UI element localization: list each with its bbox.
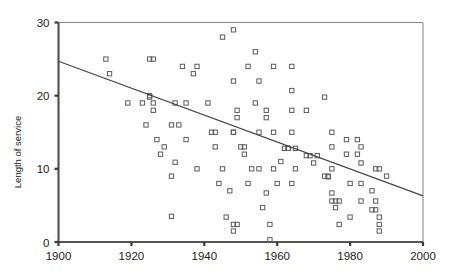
data-point [279,159,283,163]
data-point [242,152,246,156]
data-point [151,108,155,112]
data-point [370,189,374,193]
data-point [169,123,173,127]
data-point [180,64,184,68]
data-point [162,145,166,149]
data-point [359,181,363,185]
data-point [359,145,363,149]
y-axis-ticks: 0102030 [37,17,59,249]
data-point [384,174,388,178]
data-point [224,215,228,219]
data-point [290,88,294,92]
data-point [293,167,297,171]
data-point [144,123,148,127]
data-point [359,161,363,165]
data-point [235,108,239,112]
data-point [271,167,275,171]
y-tick-label-20: 20 [37,90,50,102]
data-point [271,130,275,134]
data-point [275,181,279,185]
data-point [169,174,173,178]
data-point [271,64,275,68]
data-point [355,137,359,141]
data-point [246,64,250,68]
data-point [257,79,261,83]
data-point [344,152,348,156]
trend-line-layer [59,61,424,196]
data-point [169,214,173,218]
x-tick-label-1940: 1940 [192,250,218,262]
data-point [184,137,188,141]
data-point [253,101,257,105]
data-point [322,95,326,99]
data-point [333,205,337,209]
data-point [257,167,261,171]
data-point [290,108,294,112]
x-axis-ticks: 190019201940196019802000 [46,242,436,262]
data-point [151,101,155,105]
data-point [184,101,188,105]
data-point [330,130,334,134]
x-tick-label-1980: 1980 [337,250,363,262]
data-point [228,189,232,193]
data-point-layer [104,28,389,242]
data-point [231,28,235,32]
data-point [355,152,359,156]
data-point [290,130,294,134]
data-point [359,199,363,203]
data-point [250,167,254,171]
data-point [290,181,294,185]
data-point [231,229,235,233]
data-point [195,64,199,68]
data-point [330,145,334,149]
axis-label-layer: Length of service [12,116,23,188]
data-point [330,167,334,171]
data-point [264,108,268,112]
data-point [373,199,377,203]
y-tick-label-30: 30 [37,17,50,29]
plot-frame [59,23,424,243]
data-point [206,101,210,105]
data-point [312,161,316,165]
data-point [348,181,352,185]
data-point [158,152,162,156]
data-point [195,167,199,171]
x-tick-label-1960: 1960 [264,250,290,262]
data-point [231,79,235,83]
data-point [213,145,217,149]
data-point [290,64,294,68]
scatter-chart: 190019201940196019802000 0102030 Length … [0,0,450,277]
data-point [330,191,334,195]
data-point [107,72,111,76]
data-point [177,123,181,127]
data-point [217,181,221,185]
data-point [155,137,159,141]
data-point [231,130,235,134]
y-tick-label-10: 10 [37,163,50,175]
chart-canvas: 190019201940196019802000 0102030 Length … [0,0,450,277]
data-point [264,191,268,195]
data-point [104,57,108,61]
data-point [377,229,381,233]
data-point [173,160,177,164]
data-point [377,215,381,219]
data-point [235,115,239,119]
x-tick-label-2000: 2000 [410,250,436,262]
data-point [377,222,381,226]
data-point [348,215,352,219]
x-tick-label-1920: 1920 [119,250,145,262]
data-point [260,205,264,209]
data-point [220,167,224,171]
regression-line [59,61,424,196]
y-tick-label-0: 0 [43,237,49,249]
x-tick-label-1900: 1900 [46,250,72,262]
data-point [344,137,348,141]
data-point [140,101,144,105]
data-point [337,222,341,226]
data-point [257,130,261,134]
data-point [191,72,195,76]
data-point [264,115,268,119]
data-point [253,50,257,54]
y-axis-title: Length of service [12,116,23,188]
data-point [220,35,224,39]
